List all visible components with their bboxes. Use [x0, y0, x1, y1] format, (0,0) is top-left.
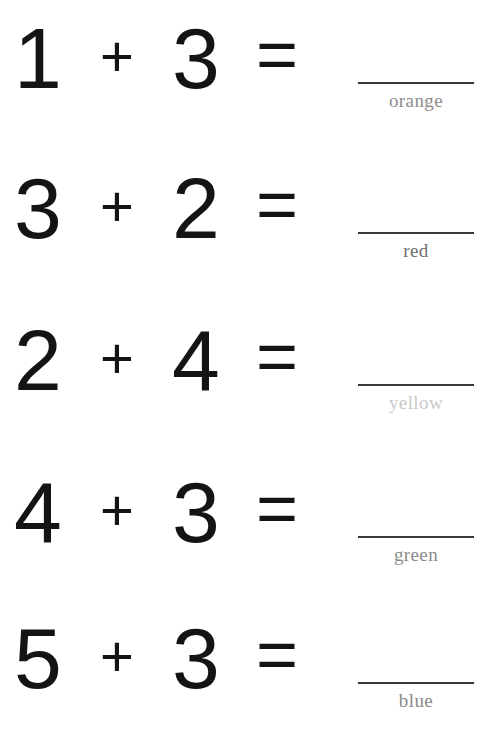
second-addend: 3: [158, 469, 234, 555]
plus-operator: +: [76, 627, 158, 685]
answer-zone: green: [358, 462, 476, 582]
color-word-label: yellow: [358, 392, 474, 414]
problem-row: 3+2=red: [0, 158, 482, 308]
equals-operator: =: [234, 472, 320, 544]
answer-blank-line[interactable]: [358, 232, 474, 234]
equals-operator: =: [234, 618, 320, 690]
problem-row: 1+3=orange: [0, 8, 482, 158]
problem-row: 5+3=blue: [0, 608, 482, 741]
problem-row: 4+3=green: [0, 462, 482, 612]
problem-row: 2+4=yellow: [0, 310, 482, 460]
color-word-label: green: [358, 544, 474, 566]
equation: 3+2=: [0, 158, 340, 258]
second-addend: 2: [158, 165, 234, 251]
first-addend: 3: [0, 165, 76, 251]
first-addend: 5: [0, 615, 76, 701]
equation: 1+3=: [0, 8, 340, 108]
equals-operator: =: [234, 320, 320, 392]
first-addend: 2: [0, 317, 76, 403]
answer-blank-line[interactable]: [358, 682, 474, 684]
color-word-label: orange: [358, 90, 474, 112]
plus-operator: +: [76, 27, 158, 85]
second-addend: 3: [158, 615, 234, 701]
answer-zone: yellow: [358, 310, 476, 430]
equals-operator: =: [234, 18, 320, 90]
answer-zone: blue: [358, 608, 476, 728]
equation: 4+3=: [0, 462, 340, 562]
equals-operator: =: [234, 168, 320, 240]
first-addend: 1: [0, 15, 76, 101]
plus-operator: +: [76, 177, 158, 235]
first-addend: 4: [0, 469, 76, 555]
answer-blank-line[interactable]: [358, 536, 474, 538]
color-word-label: blue: [358, 690, 474, 712]
plus-operator: +: [76, 481, 158, 539]
plus-operator: +: [76, 329, 158, 387]
worksheet-page: 1+3=orange3+2=red2+4=yellow4+3=green5+3=…: [0, 0, 482, 741]
second-addend: 3: [158, 15, 234, 101]
color-word-label: red: [358, 240, 474, 262]
answer-zone: red: [358, 158, 476, 278]
equation: 2+4=: [0, 310, 340, 410]
answer-blank-line[interactable]: [358, 82, 474, 84]
equation: 5+3=: [0, 608, 340, 708]
answer-blank-line[interactable]: [358, 384, 474, 386]
answer-zone: orange: [358, 8, 476, 128]
second-addend: 4: [158, 317, 234, 403]
